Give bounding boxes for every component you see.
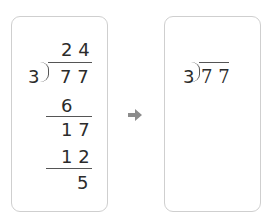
dividend-right: 7 7 xyxy=(201,68,230,86)
subtraction-step-1: 6 xyxy=(61,97,72,115)
worked-division-panel xyxy=(11,16,108,212)
subtraction-step-2: 1 2 xyxy=(61,148,90,166)
division-bar-right xyxy=(199,62,229,63)
final-remainder: 5 xyxy=(77,174,88,192)
empty-division-panel xyxy=(164,16,261,212)
remainder-step-1: 1 7 xyxy=(61,121,90,139)
subtraction-line-2 xyxy=(46,168,92,169)
right-arrow-icon xyxy=(128,109,142,121)
quotient: 2 4 xyxy=(61,41,90,59)
division-bar xyxy=(48,62,92,63)
divisor: 3 xyxy=(28,68,39,86)
dividend: 7 7 xyxy=(60,68,89,86)
subtraction-line-1 xyxy=(46,116,92,117)
